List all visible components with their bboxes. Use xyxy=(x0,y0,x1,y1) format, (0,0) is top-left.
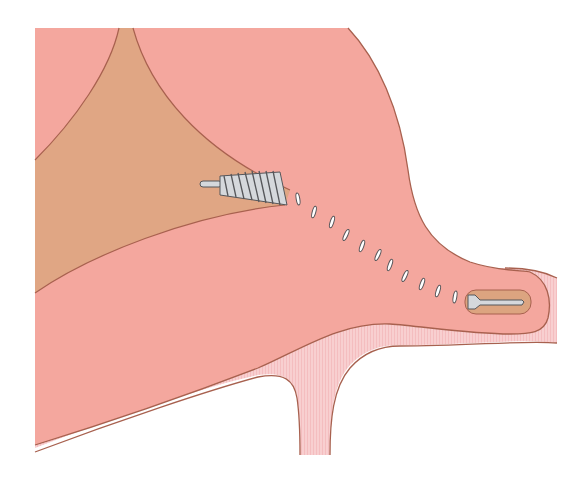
stem-right-outline xyxy=(330,342,557,455)
illustration-canvas xyxy=(0,0,583,480)
